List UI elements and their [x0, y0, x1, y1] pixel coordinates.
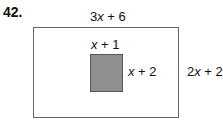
- problem-number: 42.: [3, 4, 22, 20]
- inner-shaded-rectangle: [90, 54, 123, 92]
- outer-width-label: 3x + 6: [90, 9, 126, 24]
- inner-height-label: x + 2: [128, 64, 157, 79]
- inner-width-label: x + 1: [91, 37, 120, 52]
- outer-height-label: 2x + 2: [187, 64, 223, 79]
